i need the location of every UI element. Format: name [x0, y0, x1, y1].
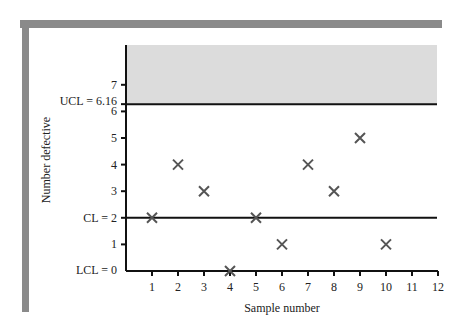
x-tick-label: 6 — [279, 280, 285, 294]
x-tick-label: 5 — [253, 280, 259, 294]
data-point-x-marker — [277, 239, 287, 249]
x-tick-label: 9 — [357, 280, 363, 294]
data-point-x-marker — [199, 186, 209, 196]
cl-label: CL = 2 — [83, 211, 117, 225]
lcl-label: LCL = 0 — [76, 263, 117, 277]
data-point-x-marker — [355, 133, 365, 143]
x-tick-label: 12 — [432, 280, 444, 294]
data-point-x-marker — [173, 160, 183, 170]
y-tick-label: 1 — [111, 237, 117, 251]
frame-left-bar — [22, 20, 29, 312]
y-tick-label: 3 — [111, 184, 117, 198]
control-chart: 134567UCL = 6.16CL = 2LCL = 012345678910… — [0, 0, 461, 329]
x-tick-label: 2 — [175, 280, 181, 294]
x-tick-label: 11 — [406, 280, 418, 294]
frame-top-bar — [20, 20, 442, 28]
out-of-control-region — [126, 45, 437, 104]
x-tick-label: 8 — [331, 280, 337, 294]
x-tick-label: 10 — [380, 280, 392, 294]
ucl-label: UCL = 6.16 — [60, 94, 117, 108]
x-tick-label: 3 — [201, 280, 207, 294]
y-tick-label: 5 — [111, 131, 117, 145]
y-axis-title: Number defective — [39, 117, 53, 203]
data-point-x-marker — [381, 239, 391, 249]
x-tick-label: 1 — [149, 280, 155, 294]
y-tick-label: 7 — [111, 78, 117, 92]
x-tick-label: 7 — [305, 280, 311, 294]
data-point-x-marker — [329, 186, 339, 196]
data-point-x-marker — [303, 160, 313, 170]
x-axis-title: Sample number — [244, 301, 320, 315]
y-tick-label: 4 — [111, 158, 117, 172]
plot-area: 134567UCL = 6.16CL = 2LCL = 012345678910… — [60, 45, 444, 294]
x-tick-label: 4 — [227, 280, 233, 294]
